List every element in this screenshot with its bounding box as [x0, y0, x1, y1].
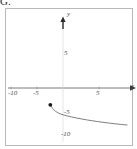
y-axis: [60, 17, 65, 143]
x-axis-label: x: [131, 83, 134, 90]
x-tick-label-neg10: -10: [8, 90, 17, 97]
y-axis-label: y: [67, 11, 70, 18]
coordinate-plot: [0, 0, 137, 149]
figure-root: G. -10 -5 5 5 -5 -10 x y: [0, 0, 137, 149]
curve-endpoint-dot: [48, 103, 52, 107]
x-tick-label-neg5: -5: [33, 90, 39, 97]
y-tick-label-neg5: -5: [64, 109, 70, 116]
x-tick-label-5: 5: [96, 90, 100, 97]
y-tick-label-5: 5: [64, 50, 68, 57]
curve-path: [51, 106, 128, 126]
x-axis: [8, 85, 136, 91]
y-tick-label-neg10: -10: [61, 131, 70, 138]
